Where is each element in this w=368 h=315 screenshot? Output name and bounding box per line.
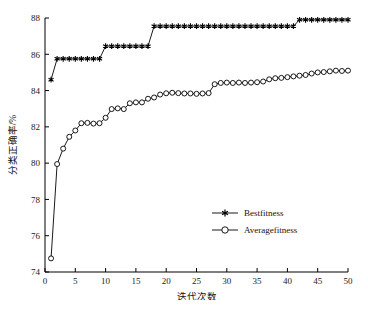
data-point-marker — [79, 121, 84, 126]
x-tick-label: 30 — [222, 276, 232, 286]
data-point-marker — [255, 80, 260, 85]
data-point-marker — [261, 79, 266, 84]
data-point-marker — [200, 91, 205, 96]
data-point-marker — [158, 92, 163, 97]
data-point-marker — [230, 80, 235, 85]
data-point-marker — [309, 71, 314, 76]
data-point-marker — [109, 107, 114, 112]
data-point-marker — [242, 80, 247, 85]
legend-circle-icon — [222, 227, 228, 233]
data-point-marker — [139, 100, 144, 105]
legend-item-averagefitness[interactable]: Averagefitness — [212, 225, 298, 235]
y-tick-label: 88 — [31, 13, 41, 23]
data-point-marker — [176, 91, 181, 96]
figure-container: 747678808284868805101520253035404550 Bes… — [0, 0, 368, 315]
x-tick-label: 20 — [162, 276, 172, 286]
x-tick-label: 50 — [344, 276, 354, 286]
x-tick-label: 25 — [192, 276, 202, 286]
data-point-marker — [303, 72, 308, 77]
x-tick-label: 5 — [73, 276, 78, 286]
data-point-marker — [188, 91, 193, 96]
data-point-marker — [212, 82, 217, 87]
data-point-marker — [182, 91, 187, 96]
y-axis-title: 分类正确率/% — [7, 115, 18, 176]
x-axis-title: 迭代次数 — [177, 291, 217, 300]
y-tick-label: 80 — [31, 158, 41, 168]
legend-layer[interactable]: BestfitnessAveragefitness — [212, 208, 298, 235]
y-tick-label: 84 — [31, 86, 41, 96]
y-tick-label: 76 — [31, 231, 41, 241]
data-point-marker — [170, 90, 175, 95]
legend-label: Bestfitness — [244, 208, 284, 218]
accuracy-vs-iteration-chart: 747678808284868805101520253035404550 Bes… — [0, 0, 368, 300]
y-tick-label: 78 — [31, 195, 41, 205]
x-tick-label: 0 — [43, 276, 48, 286]
series-layer — [49, 17, 351, 261]
x-tick-label: 40 — [283, 276, 293, 286]
data-point-marker — [73, 128, 78, 133]
figure-caption — [0, 308, 368, 315]
data-point-marker — [194, 91, 199, 96]
data-point-marker — [339, 68, 344, 73]
y-tick-label: 74 — [31, 267, 41, 277]
data-point-marker — [164, 91, 169, 96]
series-line — [51, 71, 348, 259]
data-point-marker — [346, 68, 351, 73]
data-point-marker — [152, 95, 157, 100]
data-point-marker — [206, 91, 211, 96]
data-point-marker — [285, 75, 290, 80]
data-point-marker — [291, 74, 296, 79]
data-point-marker — [85, 120, 90, 125]
data-point-marker — [121, 107, 126, 112]
legend-item-bestfitness[interactable]: Bestfitness — [212, 208, 284, 218]
series-averagefitness — [49, 68, 351, 261]
data-point-marker — [67, 134, 72, 139]
data-point-marker — [103, 115, 108, 120]
data-point-marker — [236, 80, 241, 85]
data-point-marker — [97, 121, 102, 126]
legend-label: Averagefitness — [244, 225, 298, 235]
y-tick-label: 86 — [31, 50, 41, 60]
data-point-marker — [321, 70, 326, 75]
axes: 747678808284868805101520253035404550 — [31, 13, 353, 286]
x-tick-label: 10 — [101, 276, 111, 286]
data-point-marker — [315, 70, 320, 75]
data-point-marker — [133, 100, 138, 105]
data-point-marker — [273, 76, 278, 81]
data-point-marker — [49, 77, 54, 83]
y-tick-label: 82 — [31, 122, 40, 132]
data-point-marker — [224, 80, 229, 85]
data-point-marker — [91, 121, 96, 126]
x-tick-label: 45 — [313, 276, 323, 286]
data-point-marker — [49, 256, 54, 261]
data-point-marker — [218, 80, 223, 85]
data-point-marker — [55, 162, 60, 167]
data-point-marker — [279, 75, 284, 80]
x-tick-label: 35 — [253, 276, 263, 286]
data-point-marker — [146, 96, 151, 101]
data-point-marker — [297, 73, 302, 78]
data-point-marker — [115, 106, 120, 111]
data-point-marker — [327, 69, 332, 74]
data-point-marker — [127, 101, 132, 106]
x-tick-label: 15 — [131, 276, 141, 286]
data-point-marker — [267, 77, 272, 82]
series-line — [51, 20, 348, 80]
data-point-marker — [249, 80, 254, 85]
data-point-marker — [61, 146, 66, 151]
data-point-marker — [333, 68, 338, 73]
